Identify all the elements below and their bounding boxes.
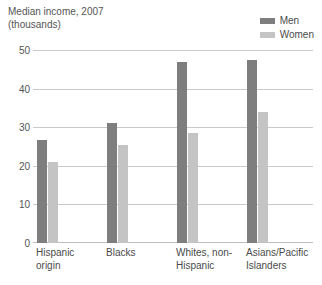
chart-title-block: Median income, 2007 (thousands) <box>8 6 104 31</box>
bar-women <box>188 133 198 243</box>
chart-subtitle: (thousands) <box>8 19 104 32</box>
bar-group <box>247 50 317 243</box>
y-axis-tick-label: 20 <box>0 160 30 171</box>
y-axis-labels: 01020304050 <box>0 50 30 243</box>
chart-legend: Men Women <box>260 15 314 43</box>
bar-group <box>37 50 107 243</box>
bar-women <box>118 145 128 243</box>
bar-women <box>48 162 58 243</box>
legend-label-women: Women <box>280 29 314 41</box>
x-axis-labels: HispanicoriginBlacksWhites, non-Hispanic… <box>33 247 313 283</box>
chart-title: Median income, 2007 <box>8 6 104 19</box>
x-axis-category-label: Whites, non-Hispanic <box>176 247 232 272</box>
bar-group <box>107 50 177 243</box>
bar-men <box>37 140 47 243</box>
bar-men <box>107 123 117 243</box>
legend-label-men: Men <box>280 15 299 27</box>
x-axis-category-label: Hispanicorigin <box>36 247 74 272</box>
plot-area <box>33 50 313 243</box>
y-axis-tick-label: 0 <box>0 238 30 249</box>
median-income-bar-chart: Median income, 2007 (thousands) Men Wome… <box>0 0 322 285</box>
legend-swatch-men <box>260 18 275 24</box>
legend-swatch-women <box>260 32 275 38</box>
y-axis-tick-label: 40 <box>0 83 30 94</box>
y-axis-tick-label: 30 <box>0 122 30 133</box>
x-axis-category-label: Blacks <box>106 247 135 260</box>
legend-item-women: Women <box>260 29 314 41</box>
bar-groups <box>33 50 313 243</box>
bar-women <box>258 112 268 243</box>
y-axis-tick-label: 50 <box>0 45 30 56</box>
bar-men <box>177 62 187 243</box>
y-axis-tick-label: 10 <box>0 199 30 210</box>
bar-men <box>247 60 257 243</box>
bar-group <box>177 50 247 243</box>
legend-item-men: Men <box>260 15 314 27</box>
x-axis-category-label: Asians/PacificIslanders <box>246 247 308 272</box>
